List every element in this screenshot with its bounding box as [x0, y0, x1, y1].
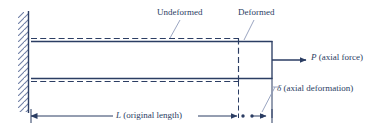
delta-dimension-line: [241, 109, 272, 123]
deformed-bar-outline: [31, 41, 273, 79]
axial-force-note: (axial force): [319, 52, 363, 62]
axial-deformation-symbol: δ: [277, 83, 281, 93]
undeformed-bar-outline: [31, 39, 239, 82]
axial-deformation-label: δ (axial deformation): [277, 83, 353, 93]
original-length-symbol: L: [116, 110, 121, 120]
axial-force-symbol: P: [311, 52, 317, 62]
diagram-canvas: [0, 0, 379, 131]
original-length-note: (original length): [123, 110, 182, 120]
axial-force-label: P (axial force): [311, 52, 363, 62]
axial-deformation-note: (axial deformation): [283, 83, 353, 93]
deformed-leader-line: [244, 20, 254, 40]
deformed-label: Deformed: [238, 7, 274, 17]
undeformed-leader-line: [170, 20, 180, 38]
delta-leader-line: [262, 87, 275, 112]
original-length-label: L (original length): [116, 110, 182, 120]
axial-deformation-figure: Undeformed Deformed P (axial force) δ (a…: [0, 0, 379, 131]
fixed-support-wall: [18, 11, 29, 113]
undeformed-label: Undeformed: [157, 7, 202, 17]
